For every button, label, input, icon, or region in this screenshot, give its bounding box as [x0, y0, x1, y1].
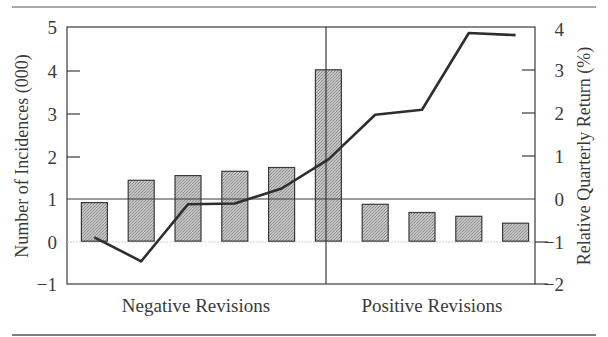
svg-text:−2: −2: [544, 274, 564, 295]
bar: [128, 180, 154, 241]
group-label-negative: Negative Revisions: [122, 295, 270, 316]
group-label-positive: Positive Revisions: [362, 295, 503, 316]
svg-text:3: 3: [555, 60, 565, 81]
return-line: [94, 33, 515, 261]
left-tick-labels: 5 4 3 2 1 0 −1: [37, 17, 58, 295]
svg-text:1: 1: [555, 146, 565, 167]
svg-text:−1: −1: [37, 274, 57, 295]
bar: [503, 223, 529, 241]
bar-series: [81, 70, 528, 241]
svg-text:4: 4: [48, 61, 58, 82]
svg-text:4: 4: [555, 19, 565, 40]
bar: [81, 203, 107, 242]
svg-text:0: 0: [48, 232, 58, 253]
svg-text:0: 0: [555, 189, 565, 210]
plot-frame: [67, 27, 535, 284]
svg-text:2: 2: [48, 147, 58, 168]
right-axis-title: Relative Quarterly Return (%): [574, 47, 595, 265]
bar: [315, 70, 341, 241]
left-axis-title: Number of Incidences (000): [12, 54, 33, 257]
svg-text:3: 3: [48, 104, 58, 125]
svg-text:1: 1: [48, 189, 58, 210]
svg-text:−1: −1: [544, 232, 564, 253]
left-axis-ticks: [67, 71, 80, 157]
bar: [456, 216, 482, 241]
svg-text:5: 5: [48, 17, 58, 38]
chart: 5 4 3 2 1 0 −1 4 3 2 1 0 −1 −2 Number of…: [0, 0, 608, 337]
bar: [362, 204, 388, 241]
bar: [175, 176, 201, 242]
bar: [222, 171, 248, 241]
bar: [409, 213, 435, 242]
bar: [269, 168, 295, 242]
right-tick-labels: 4 3 2 1 0 −1 −2: [544, 19, 565, 295]
svg-text:2: 2: [555, 103, 565, 124]
